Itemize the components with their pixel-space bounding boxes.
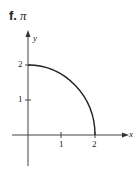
quarter-circle-curve	[28, 65, 95, 135]
x-axis-label: x	[129, 129, 133, 139]
y-tick-label-2: 2	[18, 59, 23, 69]
y-tick-label-1: 1	[18, 94, 23, 104]
x-axis-arrow-icon	[122, 133, 129, 138]
graph	[0, 0, 140, 169]
y-axis-label: y	[33, 33, 37, 43]
x-tick-label-2: 2	[92, 139, 97, 149]
y-axis-arrow-icon	[26, 30, 31, 37]
x-tick-label-1: 1	[59, 139, 64, 149]
